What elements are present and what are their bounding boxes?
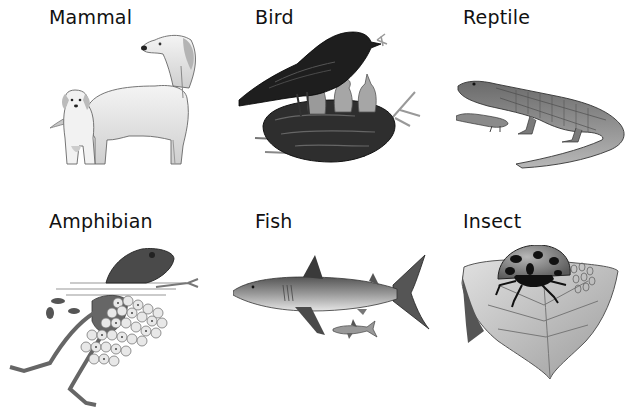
card-bird: Bird [213, 0, 426, 205]
card-mammal: Mammal [0, 0, 213, 205]
card-amphibian: Amphibian [0, 205, 213, 418]
label-mammal: Mammal [49, 6, 132, 28]
card-reptile: Reptile [426, 0, 638, 205]
card-fish: Fish [213, 205, 426, 418]
label-amphibian: Amphibian [49, 210, 153, 232]
label-insect: Insect [463, 210, 521, 232]
ladybird-on-leaf-icon [458, 245, 628, 385]
card-insect: Insect [426, 205, 638, 418]
frog-with-frogspawn-icon [6, 243, 206, 413]
label-reptile: Reptile [463, 6, 530, 28]
alligator-with-baby-icon [456, 76, 636, 176]
label-fish: Fish [255, 210, 293, 232]
dog-and-puppy-icon [45, 28, 205, 168]
shark-with-small-shark-icon [233, 249, 433, 345]
label-bird: Bird [255, 6, 294, 28]
bird-feeding-chicks-in-nest-icon [235, 26, 425, 176]
